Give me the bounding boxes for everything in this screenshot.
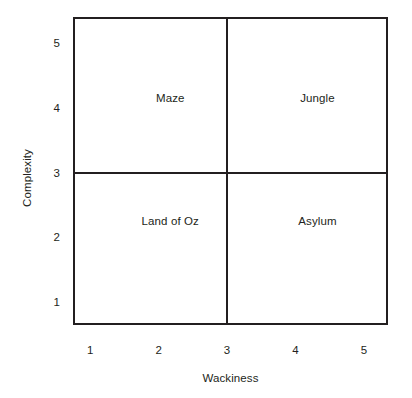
quadrant-label-upper-left: Maze xyxy=(156,91,185,105)
quadrant-matrix-chart: Maze Jungle Land of Oz Asylum 1 2 3 4 5 … xyxy=(0,0,412,398)
y-axis-title: Complexity xyxy=(20,149,34,207)
x-axis-title: Wackiness xyxy=(202,371,258,385)
x-axis-tick-4: 4 xyxy=(292,343,298,357)
x-axis-tick-3: 3 xyxy=(224,343,230,357)
quadrant-label-lower-right: Asylum xyxy=(298,214,336,228)
quadrant-label-lower-left: Land of Oz xyxy=(142,214,199,228)
x-axis-tick-5: 5 xyxy=(361,343,367,357)
y-axis-tick-1: 1 xyxy=(54,295,60,309)
y-axis-tick-3: 3 xyxy=(54,166,60,180)
y-axis-tick-5: 5 xyxy=(54,36,60,50)
quadrant-label-upper-right: Jungle xyxy=(300,91,335,105)
x-axis-tick-1: 1 xyxy=(87,343,93,357)
quadrant-divider-horizontal xyxy=(73,172,388,174)
y-axis-tick-2: 2 xyxy=(54,230,60,244)
x-axis-tick-2: 2 xyxy=(155,343,161,357)
y-axis-tick-4: 4 xyxy=(54,101,60,115)
